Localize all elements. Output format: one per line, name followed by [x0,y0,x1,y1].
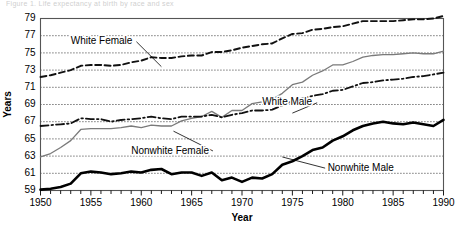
leader-line-0 [136,42,161,67]
y-tick-label: 73 [24,64,36,75]
x-tick-label: 1955 [80,197,103,208]
life-expectancy-line-chart: White FemaleWhite FemaleNonwhite FemaleN… [0,0,458,226]
y-tick-label: 71 [24,81,36,92]
y-tick-label: 77 [24,29,36,40]
series-line-white-female [41,16,444,77]
series-line-nonwhite-male [41,120,444,190]
x-axis-title: Year [231,212,252,223]
y-tick-label: 65 [24,133,36,144]
y-tick-label: 63 [24,150,36,161]
series-label-nonwhite-female: Nonwhite Female [131,145,209,156]
series-label-white-female: White Female [71,35,133,46]
series-line-white-male [41,73,444,126]
x-tick-label: 1950 [29,197,52,208]
x-tick-label: 1970 [231,197,254,208]
y-tick-label: 75 [24,47,36,58]
y-tick-label: 67 [24,115,36,126]
x-tick-label: 1990 [432,197,455,208]
figure-container: Figure 1. Life expectancy at birth by ra… [0,0,458,226]
x-tick-label: 1960 [130,197,153,208]
y-tick-label: 69 [24,98,36,109]
axis-ticks-group [41,191,444,196]
x-tick-label: 1985 [382,197,405,208]
y-tick-label: 61 [24,167,36,178]
series-label-white-male: White Male [262,96,312,107]
x-tick-label: 1965 [181,197,204,208]
series-label-nonwhite-male: Nonwhite Male [328,162,395,173]
x-tick-label: 1975 [281,197,304,208]
y-axis-title: Years [2,91,13,118]
x-tick-label: 1980 [332,197,355,208]
y-tick-label: 79 [24,12,36,23]
y-tick-label: 59 [24,184,36,195]
